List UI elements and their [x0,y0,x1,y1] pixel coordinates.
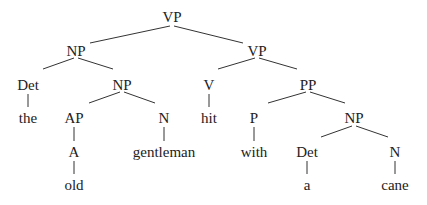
node-cane: cane [381,178,408,193]
node-det1: Det [17,78,39,93]
edge-np3-det2 [321,126,352,137]
edge-vp1-pp [259,58,297,69]
node-ap: AP [64,111,83,126]
node-n1: N [159,111,170,126]
node-np3: NP [344,111,363,126]
edge-pp-np3 [310,92,345,103]
node-with: with [241,145,268,160]
node-vp1: VP [247,44,266,59]
node-old: old [64,178,83,193]
node-a_adj: A [69,145,80,160]
edge-np3-n2 [356,126,388,137]
edge-pp-p [268,92,306,103]
node-hit: hit [201,111,217,126]
edge-vp1-v [218,58,255,69]
node-a_det: a [304,178,311,193]
edge-np1-np2 [78,58,113,69]
node-np2: NP [112,78,131,93]
node-det2: Det [296,145,318,160]
node-v: V [204,78,215,93]
tree-edges [0,0,427,205]
edge-np1-det1 [43,58,74,69]
edge-vp0-np1 [90,26,170,43]
node-n2: N [390,145,401,160]
node-np1: NP [66,44,85,59]
node-the: the [19,111,37,126]
node-gentleman: gentleman [133,145,195,160]
edge-np2-n1 [124,92,155,103]
node-pp: PP [300,78,317,93]
edge-vp0-vp1 [174,26,243,43]
node-p: P [250,111,258,126]
syntax-tree: VPNPVPDetNPtheAPNAgentlemanoldVhitPPPwit… [0,0,427,205]
node-vp0: VP [162,10,181,25]
edge-np2-ap [89,92,120,103]
